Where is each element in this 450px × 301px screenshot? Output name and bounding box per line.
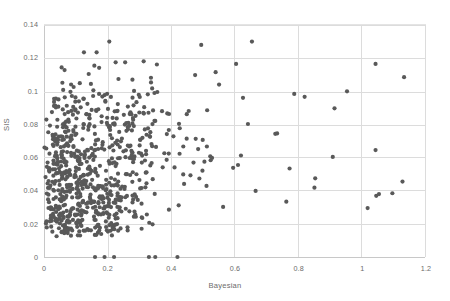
scatter-chart-figure: 00.020.040.060.080.10.120.14 00.20.40.60… (0, 0, 450, 301)
x-tick-label: 1 (360, 264, 364, 273)
y-tick-label: 0.06 (4, 153, 38, 162)
y-tick-label: 0 (4, 253, 38, 262)
x-tick-label: 0.2 (103, 264, 113, 273)
plot-area (44, 24, 426, 257)
scatter-points (44, 25, 425, 257)
x-tick-label: 0.8 (294, 264, 304, 273)
x-axis-title: Bayesian (0, 281, 450, 290)
x-tick-label: 1.2 (421, 264, 431, 273)
y-tick-label: 0.04 (4, 186, 38, 195)
y-tick-label: 0.02 (4, 219, 38, 228)
x-tick-label: 0.6 (230, 264, 240, 273)
y-tick-label: 0.14 (4, 20, 38, 29)
y-tick-label: 0.1 (4, 86, 38, 95)
x-tick-label: 0.4 (166, 264, 176, 273)
y-tick-label: 0.12 (4, 53, 38, 62)
y-axis-title: SIS (2, 118, 11, 131)
x-tick-label: 0 (42, 264, 46, 273)
